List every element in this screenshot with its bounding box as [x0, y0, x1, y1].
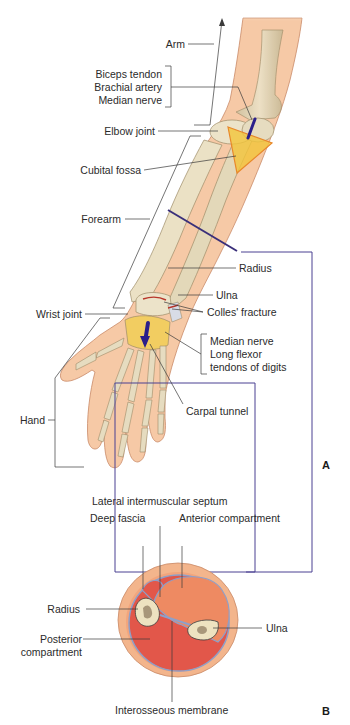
label-long-flexor: Long flexor — [210, 348, 262, 361]
label-posterior-compartment: compartment — [10, 646, 82, 659]
forearm-cross-section — [118, 563, 238, 677]
label-lateral-intermuscular-septum: Lateral intermuscular septum — [92, 495, 227, 508]
label-cubital-fossa: Cubital fossa — [60, 164, 141, 177]
label-colles-fracture: Colles' fracture — [207, 306, 277, 319]
label-median-nerve-elbow: Median nerve — [80, 94, 162, 107]
label-brachial-artery: Brachial artery — [80, 81, 162, 94]
panel-letter-a: A — [322, 459, 330, 471]
anatomy-illustration — [0, 0, 350, 725]
label-ulna: Ulna — [216, 289, 238, 302]
label-radius: Radius — [239, 262, 272, 275]
label-anterior-compartment: Anterior compartment — [179, 512, 280, 525]
label-long-flexor-tendons: tendons of digits — [210, 361, 286, 374]
label-wrist-joint: Wrist joint — [10, 308, 82, 321]
label-deep-fascia: Deep fascia — [90, 512, 145, 525]
label-hand: Hand — [10, 414, 45, 427]
label-median-nerve-wrist: Median nerve — [210, 335, 274, 348]
label-elbow-joint: Elbow joint — [80, 125, 155, 138]
label-arm: Arm — [150, 38, 185, 51]
label-forearm: Forearm — [60, 213, 121, 226]
label-interosseous-membrane: Interosseous membrane — [115, 704, 228, 717]
label-posterior: Posterior — [10, 633, 82, 646]
panel-letter-b: B — [322, 705, 330, 717]
label-carpal-tunnel: Carpal tunnel — [186, 405, 248, 418]
label-radius-section: Radius — [20, 603, 80, 616]
label-biceps-tendon: Biceps tendon — [80, 68, 162, 81]
forearm-anatomy-figure: Arm Biceps tendon Brachial artery Median… — [0, 0, 350, 725]
label-ulna-section: Ulna — [266, 622, 288, 635]
